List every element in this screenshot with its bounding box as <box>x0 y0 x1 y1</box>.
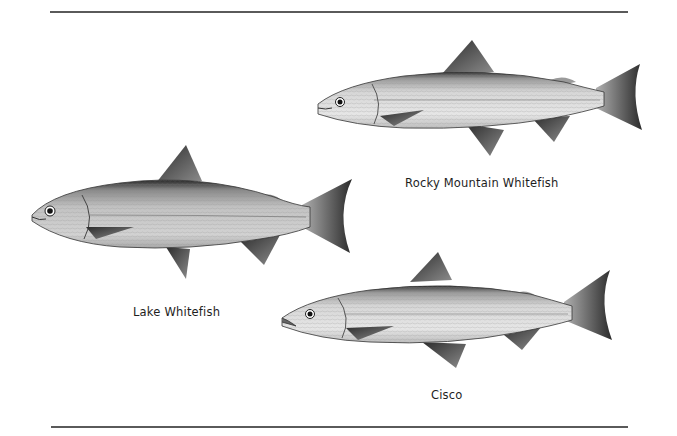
top-rule <box>50 11 628 13</box>
cisco-illustration <box>280 250 614 370</box>
rocky-mountain-whitefish-illustration <box>314 38 646 156</box>
bottom-rule <box>51 426 628 428</box>
rocky-mountain-whitefish-label: Rocky Mountain Whitefish <box>405 176 559 190</box>
cisco-label: Cisco <box>431 388 463 402</box>
lake-whitefish-label: Lake Whitefish <box>133 305 220 319</box>
